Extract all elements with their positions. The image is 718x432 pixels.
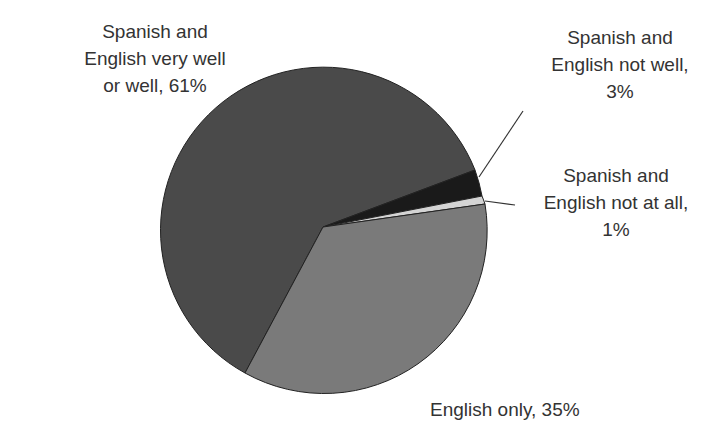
label-line: or well, 61% (50, 72, 260, 99)
label-not-at-all: Spanish and English not at all, 1% (516, 162, 716, 243)
label-line: English not well, (525, 51, 715, 78)
label-line: Spanish and (516, 162, 716, 189)
label-line: Spanish and (50, 18, 260, 45)
label-english-only: English only, 35% (430, 396, 610, 423)
label-line: 3% (525, 78, 715, 105)
leader-line-not-at-all (485, 201, 515, 205)
label-very-well-or-well: Spanish and English very well or well, 6… (50, 18, 260, 99)
label-not-well: Spanish and English not well, 3% (525, 24, 715, 105)
label-line: English very well (50, 45, 260, 72)
label-line: English not at all, (516, 189, 716, 216)
label-line: 1% (516, 216, 716, 243)
label-line: Spanish and (525, 24, 715, 51)
label-line: English only, 35% (430, 396, 610, 423)
